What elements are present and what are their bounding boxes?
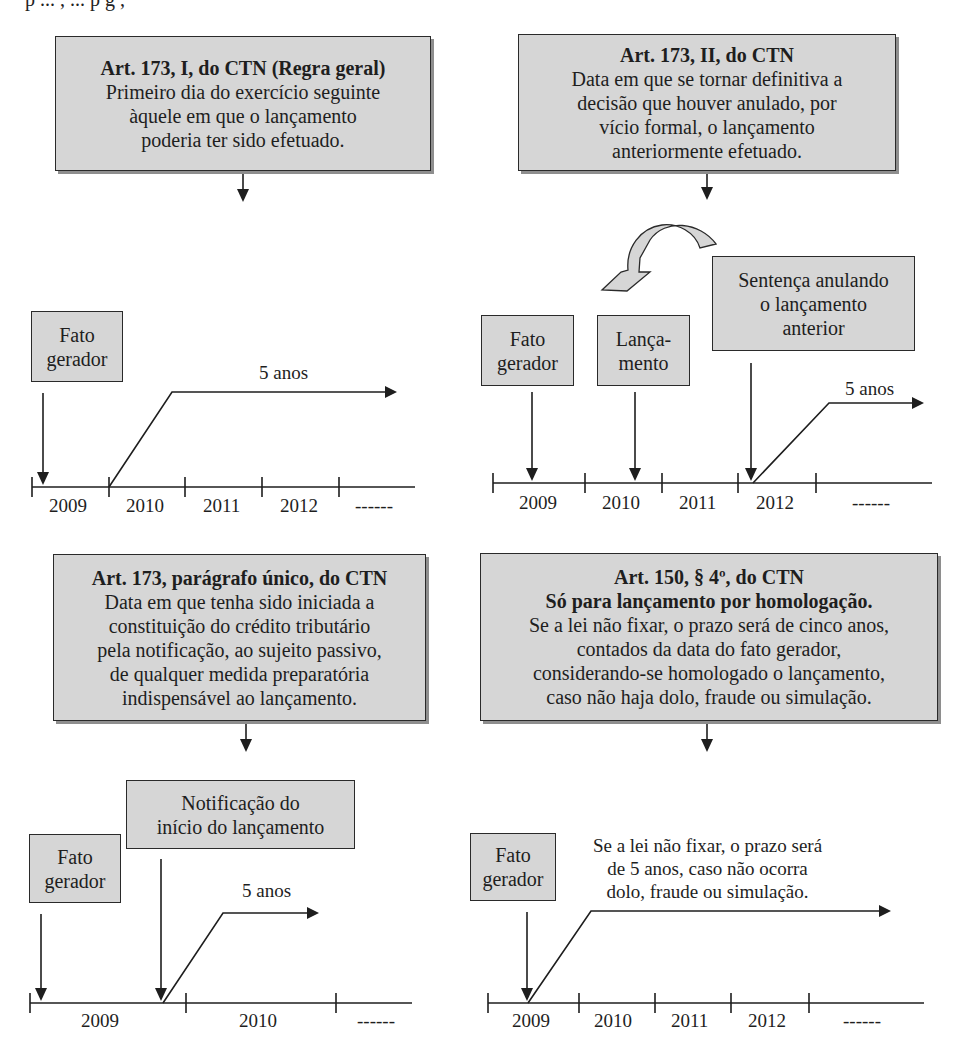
year-label: 2009 <box>512 1010 550 1032</box>
year-label-continuation: ------ <box>355 495 393 517</box>
panel-b-event-lancamento: Lança- mento <box>597 315 690 386</box>
event-label: Notificação do <box>127 791 354 815</box>
panel-d-header-box: Art. 150, § 4º, do CTN Só para lançament… <box>480 553 938 721</box>
event-label: Fato <box>30 845 120 869</box>
year-label-continuation: ------ <box>357 1010 395 1032</box>
year-label: 2012 <box>756 492 794 514</box>
panel-a-title: Art. 173, I, do CTN (Regra geral) <box>56 56 430 80</box>
event-label: Lança- <box>598 327 689 351</box>
panel-c-line: Data em que tenha sido iniciada a <box>54 590 425 614</box>
panel-a-event-fato-gerador: Fato gerador <box>31 311 123 382</box>
panel-a-line: àquele em que o lançamento <box>56 104 430 128</box>
panel-b-line: decisão que houver anulado, por <box>519 91 895 115</box>
panel-c-title: Art. 173, parágrafo único, do CTN <box>54 566 425 590</box>
period-label-line: de 5 anos, caso não ocorra <box>590 857 825 880</box>
year-label: 2011 <box>679 492 716 514</box>
panel-c-header-box: Art. 173, parágrafo único, do CTN Data e… <box>53 554 426 721</box>
panel-b-period-label: 5 anos <box>845 378 894 400</box>
panel-b-line: Data em que se tornar definitiva a <box>519 67 895 91</box>
panel-b-title: Art. 173, II, do CTN <box>519 43 895 67</box>
event-label: gerador <box>471 867 555 891</box>
panel-c-line: pela notificação, ao sujeito passivo, <box>54 638 425 662</box>
panel-b-line: vício formal, o lançamento <box>519 115 895 139</box>
panel-c-period-label: 5 anos <box>242 880 291 902</box>
year-label-continuation: ------ <box>852 492 890 514</box>
event-label: o lançamento <box>713 292 914 316</box>
period-label-line: Se a lei não fixar, o prazo será <box>590 834 825 857</box>
period-label-line: dolo, fraude ou simulação. <box>590 880 825 903</box>
event-label: gerador <box>482 351 573 375</box>
year-label: 2010 <box>602 492 640 514</box>
panel-c-line: indispensável ao lançamento. <box>54 686 425 710</box>
panel-b-line: anteriormente efetuado. <box>519 139 895 163</box>
event-label: gerador <box>32 347 122 371</box>
panel-c-event-notificacao: Notificação do início do lançamento <box>126 780 355 849</box>
year-label: 2011 <box>671 1010 708 1032</box>
event-label: Fato <box>482 327 573 351</box>
panel-d-subtitle: Só para lançamento por homologação. <box>481 589 937 613</box>
panel-d-line: considerando-se homologado o lançamento, <box>481 661 937 685</box>
curved-arrow-icon <box>602 225 716 291</box>
year-label: 2012 <box>748 1010 786 1032</box>
panel-b-header-box: Art. 173, II, do CTN Data em que se torn… <box>518 34 896 171</box>
event-label: Fato <box>471 843 555 867</box>
event-label: anterior <box>713 316 914 340</box>
panel-d-line: Se a lei não fixar, o prazo será de cinc… <box>481 613 937 637</box>
panel-c-event-fato-gerador: Fato gerador <box>29 834 121 903</box>
year-label-continuation: ------ <box>843 1010 881 1032</box>
event-label: Fato <box>32 323 122 347</box>
panel-d-line: contados da data do fato gerador, <box>481 637 937 661</box>
year-label: 2009 <box>519 492 557 514</box>
year-label: 2009 <box>49 495 87 517</box>
panel-b-event-sentenca: Sentença anulando o lançamento anterior <box>712 256 915 351</box>
event-label: mento <box>598 351 689 375</box>
event-label: Sentença anulando <box>713 268 914 292</box>
year-label: 2009 <box>81 1010 119 1032</box>
panel-a-header-box: Art. 173, I, do CTN (Regra geral) Primei… <box>55 36 431 171</box>
panel-b-event-fato-gerador: Fato gerador <box>481 315 574 386</box>
panel-a-line: poderia ter sido efetuado. <box>56 128 430 152</box>
panel-c-line: de qualquer medida preparatória <box>54 662 425 686</box>
panel-c-line: constituição do crédito tributário <box>54 614 425 638</box>
panel-a-period-label: 5 anos <box>259 362 308 384</box>
year-label: 2010 <box>594 1010 632 1032</box>
panel-a-line: Primeiro dia do exercício seguinte <box>56 80 430 104</box>
panel-d-line: caso não haja dolo, fraude ou simulação. <box>481 685 937 709</box>
year-label: 2012 <box>280 495 318 517</box>
panel-d-period-label: Se a lei não fixar, o prazo será de 5 an… <box>590 834 825 903</box>
year-label: 2011 <box>203 495 240 517</box>
year-label: 2010 <box>239 1010 277 1032</box>
panel-d-title: Art. 150, § 4º, do CTN <box>481 565 937 589</box>
year-label: 2010 <box>126 495 164 517</box>
panel-d-event-fato-gerador: Fato gerador <box>470 833 556 901</box>
event-label: início do lançamento <box>127 815 354 839</box>
event-label: gerador <box>30 869 120 893</box>
